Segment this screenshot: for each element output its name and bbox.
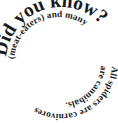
spiral-factoid-canvas: Did you know? All spiders are carnivores…	[0, 0, 118, 123]
spiral-text-graphic: Did you know? All spiders are carnivores…	[0, 0, 118, 123]
